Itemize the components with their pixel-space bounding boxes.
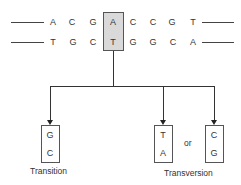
- top-strand-base: T: [188, 17, 198, 27]
- transition-label: Transition: [30, 166, 67, 176]
- transversion-2-drop-line: [214, 86, 215, 123]
- bottom-strand-left-line: [11, 42, 44, 43]
- top-strand-base: C: [148, 17, 158, 27]
- transversion-2-top-base: C: [209, 130, 219, 140]
- top-strand-base: C: [128, 17, 138, 27]
- transversion-1-bottom-base: A: [158, 148, 168, 158]
- bottom-strand-base: C: [168, 37, 178, 47]
- top-strand-right-line: [202, 22, 234, 23]
- transition-top-base: G: [45, 130, 55, 140]
- stem-line: [113, 51, 114, 87]
- bottom-strand-base: C: [88, 37, 98, 47]
- bottom-strand-right-line: [202, 42, 234, 43]
- transition-drop-line: [50, 86, 51, 123]
- bottom-strand-base-highlighted: T: [108, 37, 118, 47]
- transversion-1-top-base: T: [158, 130, 168, 140]
- top-strand-base-highlighted: A: [108, 17, 118, 27]
- transversion-label: Transversion: [164, 168, 213, 178]
- top-strand-base: A: [48, 17, 58, 27]
- or-label: or: [184, 138, 192, 148]
- bottom-strand-base: G: [128, 37, 138, 47]
- transversion-2-bottom-base: G: [209, 148, 219, 158]
- top-strand-left-line: [11, 22, 44, 23]
- bottom-strand-base: T: [48, 37, 58, 47]
- transversion-1-drop-line: [163, 86, 164, 123]
- bottom-strand-base: G: [148, 37, 158, 47]
- top-strand-base: G: [167, 17, 177, 27]
- branch-line: [50, 86, 214, 87]
- bottom-strand-base: G: [68, 37, 78, 47]
- top-strand-base: G: [88, 17, 98, 27]
- top-strand-base: C: [67, 17, 77, 27]
- transition-bottom-base: C: [45, 148, 55, 158]
- bottom-strand-base: A: [188, 37, 198, 47]
